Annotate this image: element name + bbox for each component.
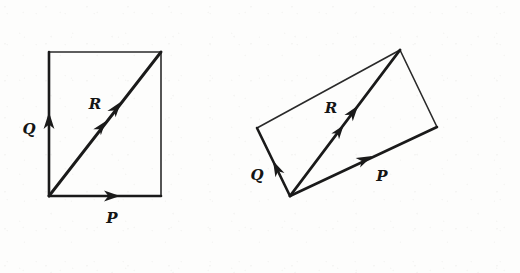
left-panel-rectangle-construction: Q P R: [22, 52, 161, 227]
right-label-p: P: [375, 167, 388, 185]
right-vector-q-arrowhead: [268, 159, 284, 178]
left-label-p: P: [105, 209, 118, 227]
left-label-q: Q: [22, 120, 35, 138]
right-panel-parallelogram-construction: Q P R: [250, 50, 437, 196]
para-construction-upper-right-side: [400, 50, 437, 127]
right-label-r: R: [324, 99, 337, 117]
left-vector-r-shaft: [49, 52, 161, 196]
figure-sheet: Q P R: [0, 0, 520, 273]
vector-diagram-canvas: Q P R: [0, 0, 520, 273]
right-label-q: Q: [250, 166, 263, 184]
left-label-r: R: [88, 95, 101, 113]
